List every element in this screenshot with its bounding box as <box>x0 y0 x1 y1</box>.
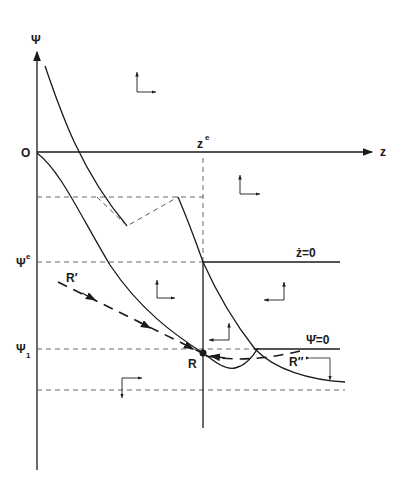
svg-text:e: e <box>205 133 210 142</box>
z-equilibrium-label: z e <box>197 133 210 151</box>
psi-dot-zero-label: Ψ̇=0 <box>306 333 330 347</box>
dashed-v-segment <box>97 197 178 226</box>
equilibrium-point-r <box>200 350 207 357</box>
phase-diagram: Ψ O z z e Ψ e Ψ 1 ż=0 Ψ̇=0 <box>0 0 407 482</box>
svg-text:Ψ: Ψ <box>16 342 26 356</box>
r-prime-path <box>58 282 200 352</box>
direction-arrow-down-right <box>122 378 142 398</box>
svg-text:e: e <box>26 252 31 261</box>
svg-text:Ψ: Ψ <box>16 256 26 270</box>
r-prime-arrow-2 <box>137 321 150 328</box>
origin-label: O <box>21 146 30 160</box>
r-double-prime-leader <box>310 358 330 380</box>
r-label: R <box>188 357 197 371</box>
svg-text:1: 1 <box>26 351 31 360</box>
z-axis-label: z <box>380 145 386 159</box>
z-dot-zero-label: ż=0 <box>296 246 316 260</box>
r-double-prime-label: R″ <box>289 355 304 369</box>
stable-arm-curve <box>37 153 203 353</box>
direction-arrow-up-left-1 <box>264 282 284 300</box>
psi-equilibrium-label: Ψ e <box>16 252 31 270</box>
direction-arrow-up-right-3 <box>157 280 175 298</box>
psi-axis-label: Ψ <box>31 33 41 47</box>
psi-1-label: Ψ 1 <box>16 342 31 360</box>
svg-text:z: z <box>197 137 203 151</box>
r-prime-arrow-1 <box>82 293 95 300</box>
direction-arrow-up-left-2 <box>209 323 229 340</box>
direction-arrow-up-right-2 <box>240 175 260 194</box>
r-prime-label: R′ <box>66 271 78 285</box>
direction-arrow-up-right-1 <box>137 72 156 92</box>
upper-curve <box>45 66 127 226</box>
